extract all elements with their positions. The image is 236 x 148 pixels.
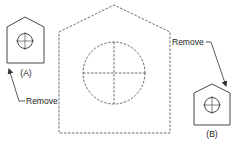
part-a-label: (A) (20, 68, 32, 78)
part-b: (B) Remove (172, 37, 230, 139)
part-a-pentagon (7, 17, 44, 63)
pentagon-removal-diagram: (A) Remove (B) Remove (0, 0, 236, 148)
part-b-leader-arrow (206, 42, 226, 86)
part-b-remove-callout: Remove (172, 37, 204, 47)
part-a: (A) Remove (7, 17, 58, 106)
part-a-remove-callout: Remove (26, 96, 58, 106)
part-b-label: (B) (206, 129, 218, 139)
large-dashed-pentagon (59, 5, 170, 133)
